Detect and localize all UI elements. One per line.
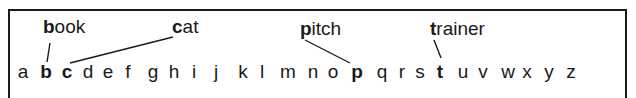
alphabet-letter-m: m <box>280 62 296 82</box>
connector-book-b <box>47 43 50 62</box>
alphabet-letter-q: q <box>377 62 388 82</box>
connector-pitch-p <box>305 40 350 63</box>
alphabet-letter-o: o <box>328 62 339 82</box>
alphabet-letter-w: w <box>501 62 515 82</box>
alphabet-letter-e: e <box>103 62 114 82</box>
alphabet-letter-l: l <box>260 62 264 82</box>
alphabet-letter-k: k <box>238 62 248 82</box>
alphabet-letter-v: v <box>478 62 488 82</box>
alphabet-letter-x: x <box>522 62 532 82</box>
connector-trainer-t <box>434 40 441 58</box>
word-label-pitch: pitch <box>300 19 341 39</box>
alphabet-letter-r: r <box>399 62 405 82</box>
alphabet-letter-a: a <box>18 62 29 82</box>
alphabet-letter-d: d <box>83 62 94 82</box>
alphabet-letter-j: j <box>214 62 218 82</box>
word-initial: p <box>300 18 312 39</box>
alphabet-letter-y: y <box>544 62 554 82</box>
alphabet-letter-g: g <box>148 62 159 82</box>
word-rest: ook <box>55 16 86 37</box>
alphabet-letter-s: s <box>415 62 425 82</box>
word-initial: b <box>43 16 55 37</box>
alphabet-letter-u: u <box>458 62 469 82</box>
connector-cat-c <box>70 37 173 63</box>
alphabet-letter-c: c <box>62 62 73 82</box>
alphabet-letter-t: t <box>437 62 443 82</box>
connector-lines <box>0 0 636 98</box>
alphabet-letter-z: z <box>566 62 576 82</box>
alphabet-letter-n: n <box>308 62 319 82</box>
word-label-book: book <box>43 17 85 37</box>
alphabet-letter-b: b <box>40 62 52 82</box>
word-label-trainer: trainer <box>430 19 485 39</box>
word-initial: c <box>172 16 183 37</box>
alphabet-letter-i: i <box>192 62 196 82</box>
alphabet-letter-f: f <box>125 62 130 82</box>
alphabet-letter-p: p <box>351 62 363 82</box>
word-rest: rainer <box>436 18 485 39</box>
alphabet-letter-h: h <box>169 62 180 82</box>
word-label-cat: cat <box>172 17 198 37</box>
word-rest: at <box>183 16 199 37</box>
word-rest: itch <box>312 18 342 39</box>
